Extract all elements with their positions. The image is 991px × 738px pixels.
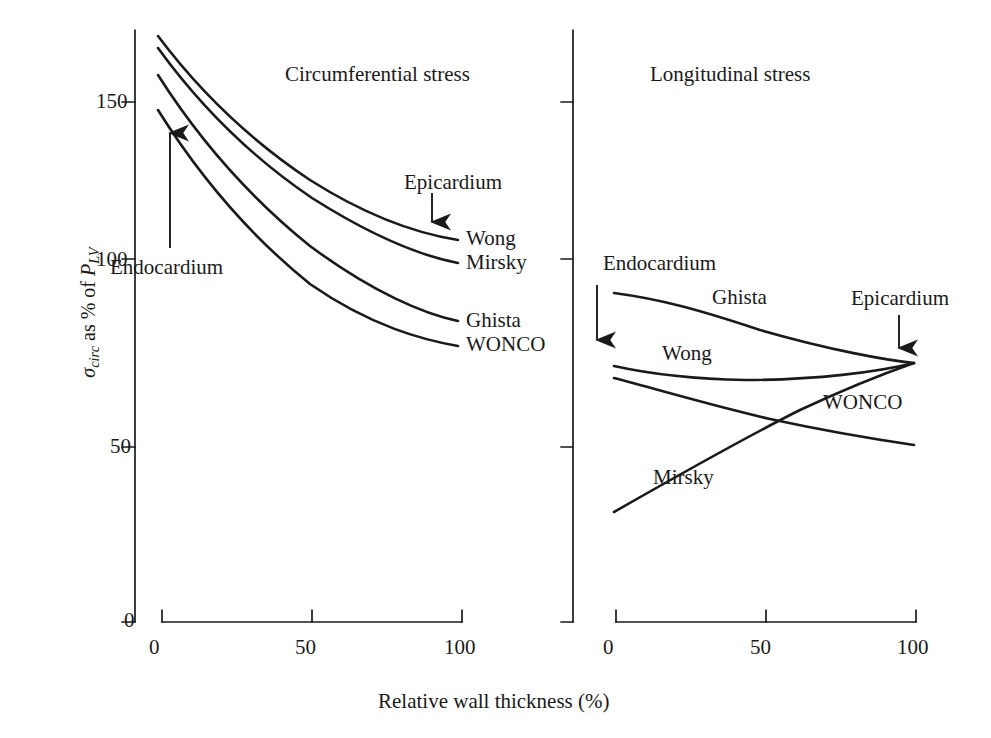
curve-left-mirsky <box>158 48 458 263</box>
figure-container: σcirc as % of PLV 150 100 50 0 0 50 100 … <box>0 0 991 738</box>
curves-longitudinal <box>614 293 914 512</box>
curve-right-wong <box>614 363 914 380</box>
plot-svg <box>0 0 991 738</box>
curve-right-wonco <box>614 378 914 445</box>
curve-left-ghista <box>158 75 458 321</box>
curve-right-ghista <box>614 293 914 363</box>
curves-circumferential <box>158 36 458 346</box>
